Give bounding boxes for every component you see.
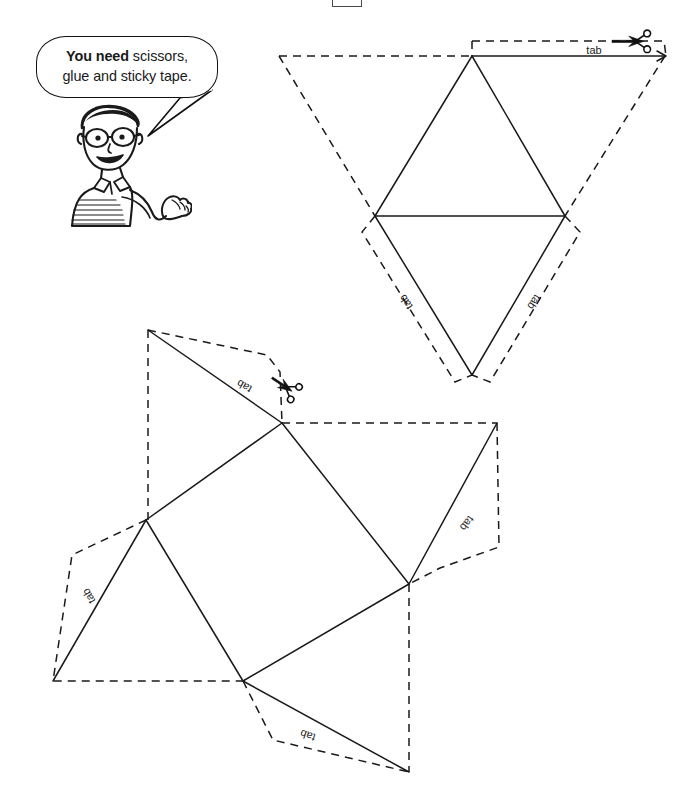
net-top-edge-lower-left [375, 216, 472, 375]
net-bottom-edge-bottom-tab-cut [243, 681, 409, 772]
page-crop-marker [332, 0, 362, 7]
net-bottom-edge-right-tab-cut [409, 423, 497, 584]
net-top-tab-label-bottomright: tab [525, 293, 544, 312]
net-top-edge-lower-right [472, 216, 565, 375]
net-bottom-tab-outline-left [53, 520, 243, 681]
net-bottom-edge-left-tab-cut [53, 520, 146, 681]
net-bottom-edge-square-left [146, 520, 243, 681]
net-top-dashed-right-side [565, 56, 665, 216]
net-bottom-tab-label-bottom: tab [298, 728, 316, 745]
speech-bubble-bold-text: You need [66, 48, 129, 64]
net-bottom-edge-square-right [282, 423, 409, 584]
net-top-edge-upper-right [472, 56, 565, 216]
speech-bubble-text: You need scissors, glue and sticky tape. [52, 47, 201, 87]
net-top-dashed-left-side [279, 56, 375, 216]
net-bottom-edge-square-bottom [243, 584, 409, 681]
speech-bubble: You need scissors, glue and sticky tape. [36, 36, 218, 98]
net-bottom-tab-label-left: tab [80, 586, 98, 605]
speech-bubble-rest-text: scissors, [129, 48, 188, 64]
net-top-tab-outline-bottom-right [472, 216, 580, 382]
net-top-tab-label-bottomleft: tab [396, 293, 415, 312]
net-bottom-tab-label-right: tab [458, 514, 477, 533]
net-bottom-edge-upper-left-face [146, 423, 282, 520]
speech-bubble-line2: glue and sticky tape. [62, 68, 191, 84]
worksheet-page: You need scissors, glue and sticky tape. [0, 0, 690, 805]
scissors-icon [266, 369, 303, 404]
net-top-edge-upper-left [375, 56, 472, 216]
net-top-tab-outline-bottom-left [362, 216, 472, 382]
net-top-tab-label-topright: tab [586, 44, 601, 56]
net-bottom-edge-top-tab-cut [148, 330, 282, 423]
